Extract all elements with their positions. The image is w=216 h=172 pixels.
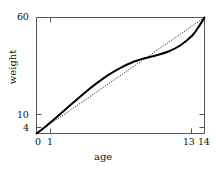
y-tick-label-60: 60 bbox=[17, 12, 29, 22]
y-axis-title: weight bbox=[8, 45, 18, 89]
reference-line-path bbox=[37, 18, 205, 134]
x-tick-label-1: 1 bbox=[47, 137, 53, 147]
x-tick-label-14: 14 bbox=[198, 137, 210, 147]
data-series-group bbox=[37, 18, 205, 134]
growth-chart-figure: weight age 60 10 4 0 1 13 14 bbox=[0, 0, 216, 172]
x-tick-label-13: 13 bbox=[183, 137, 195, 147]
y-tick-label-4: 4 bbox=[23, 123, 29, 133]
x-axis-title: age bbox=[94, 152, 112, 162]
x-tick-label-0: 0 bbox=[35, 137, 41, 147]
y-tick-label-10: 10 bbox=[17, 110, 29, 120]
